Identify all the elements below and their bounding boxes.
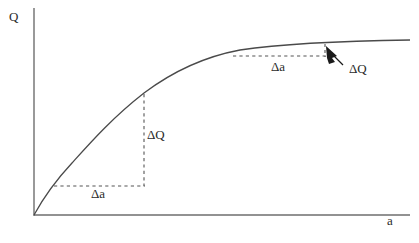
- pointer-arrow-head: [326, 46, 337, 64]
- delta-a-high-label: Δa: [271, 60, 285, 73]
- chart-canvas: [0, 0, 419, 243]
- chart-figure: Q a ΔQ Δa Δa ΔQ: [0, 0, 419, 243]
- delta-q-low-label: ΔQ: [147, 128, 165, 141]
- delta-q-high-label: ΔQ: [349, 62, 367, 75]
- x-axis-label: a: [387, 214, 393, 227]
- y-axis-label: Q: [9, 10, 18, 23]
- delta-a-low-label: Δa: [91, 187, 105, 200]
